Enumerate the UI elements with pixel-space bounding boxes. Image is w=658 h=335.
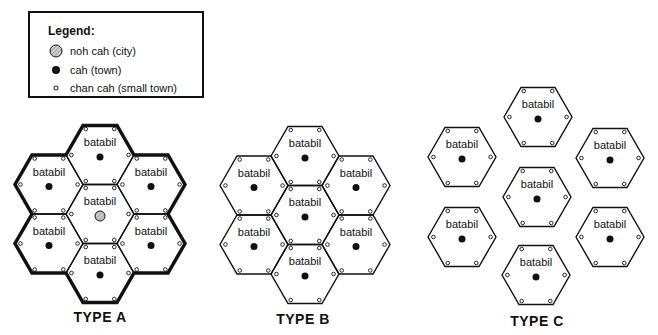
town-icon bbox=[251, 184, 258, 191]
small-town-icon bbox=[594, 209, 598, 213]
small-town-icon bbox=[474, 129, 478, 133]
hex-label: batabil bbox=[594, 218, 626, 230]
small-town-icon bbox=[127, 271, 131, 275]
small-town-icon bbox=[326, 243, 330, 247]
town-icon bbox=[353, 184, 360, 191]
small-town-icon bbox=[317, 128, 321, 132]
hex-label: batabil bbox=[33, 166, 65, 178]
small-town-icon bbox=[19, 242, 23, 246]
type-a-diagram: batabilbatabilbatabilbatabilbatabilbatab… bbox=[15, 126, 185, 303]
small-town-icon bbox=[550, 141, 554, 145]
small-town-icon bbox=[84, 297, 88, 301]
small-town-icon bbox=[317, 239, 321, 243]
small-town-icon bbox=[178, 183, 182, 187]
small-town-icon bbox=[521, 169, 525, 173]
hex-label: batabil bbox=[289, 196, 321, 208]
small-town-icon bbox=[563, 273, 567, 277]
small-town-icon bbox=[289, 187, 293, 191]
town-icon bbox=[302, 155, 309, 162]
small-town-icon bbox=[163, 268, 167, 272]
small-town-icon bbox=[340, 217, 344, 221]
town-icon bbox=[535, 116, 542, 123]
small-town-icon bbox=[76, 183, 80, 187]
town-icon bbox=[97, 154, 104, 161]
small-town-icon bbox=[84, 127, 88, 131]
hex-label: batabil bbox=[340, 167, 372, 179]
small-town-icon bbox=[289, 180, 293, 184]
small-town-icon bbox=[520, 299, 524, 303]
hex-label: batabil bbox=[33, 225, 65, 237]
small-town-icon bbox=[332, 272, 336, 276]
small-town-icon bbox=[520, 247, 524, 251]
small-town-icon bbox=[489, 155, 493, 159]
small-town-icon bbox=[317, 187, 321, 191]
town-icon bbox=[251, 243, 258, 250]
small-town-icon bbox=[594, 182, 598, 186]
small-town-icon bbox=[340, 158, 344, 162]
small-town-icon bbox=[112, 127, 116, 131]
small-town-icon bbox=[446, 181, 450, 185]
small-town-icon bbox=[368, 269, 372, 273]
small-town-icon bbox=[368, 158, 372, 162]
small-town-icon bbox=[238, 210, 242, 214]
small-town-icon bbox=[332, 154, 336, 158]
hex-label: batabil bbox=[522, 98, 554, 110]
hex-label: batabil bbox=[521, 178, 553, 190]
town-icon bbox=[459, 156, 466, 163]
small-town-icon bbox=[289, 239, 293, 243]
small-town-icon bbox=[163, 209, 167, 213]
type-c-diagram: batabilbatabilbatabilbatabilbatabilbatab… bbox=[428, 88, 644, 305]
small-town-icon bbox=[121, 242, 125, 246]
hex-label: batabil bbox=[594, 139, 626, 151]
small-town-icon bbox=[224, 184, 228, 188]
small-town-icon bbox=[594, 261, 598, 265]
small-town-icon bbox=[127, 153, 131, 157]
small-town-icon bbox=[135, 157, 139, 161]
small-town-icon bbox=[61, 216, 65, 220]
small-town-icon bbox=[266, 217, 270, 221]
small-town-icon bbox=[238, 217, 242, 221]
small-town-icon bbox=[112, 297, 116, 301]
small-town-icon bbox=[474, 261, 478, 265]
small-town-icon bbox=[548, 247, 552, 251]
small-town-icon bbox=[70, 271, 74, 275]
small-town-icon bbox=[432, 155, 436, 159]
small-town-icon bbox=[135, 216, 139, 220]
hex-label: batabil bbox=[135, 225, 167, 237]
small-town-icon bbox=[275, 154, 279, 158]
town-icon bbox=[459, 236, 466, 243]
small-town-icon bbox=[84, 238, 88, 242]
small-town-icon bbox=[289, 298, 293, 302]
town-icon bbox=[353, 243, 360, 250]
small-town-icon bbox=[549, 169, 553, 173]
small-town-icon bbox=[266, 158, 270, 162]
small-town-icon bbox=[61, 268, 65, 272]
small-town-icon bbox=[121, 183, 125, 187]
type-a-label: TYPE A bbox=[73, 309, 126, 325]
small-town-icon bbox=[275, 272, 279, 276]
small-town-icon bbox=[565, 115, 569, 119]
small-town-icon bbox=[70, 212, 74, 216]
town-icon bbox=[607, 157, 614, 164]
small-town-icon bbox=[84, 186, 88, 190]
small-town-icon bbox=[522, 89, 526, 93]
city-icon bbox=[95, 211, 105, 221]
small-town-icon bbox=[622, 261, 626, 265]
small-town-icon bbox=[332, 213, 336, 217]
small-town-icon bbox=[275, 213, 279, 217]
small-town-icon bbox=[224, 243, 228, 247]
small-town-icon bbox=[580, 235, 584, 239]
small-town-icon bbox=[112, 245, 116, 249]
small-town-icon bbox=[507, 195, 511, 199]
small-town-icon bbox=[289, 246, 293, 250]
town-icon bbox=[148, 183, 155, 190]
small-town-icon bbox=[521, 221, 525, 225]
small-town-icon bbox=[135, 268, 139, 272]
small-town-icon bbox=[317, 298, 321, 302]
small-town-icon bbox=[368, 217, 372, 221]
small-town-icon bbox=[266, 269, 270, 273]
small-town-icon bbox=[163, 157, 167, 161]
small-town-icon bbox=[33, 209, 37, 213]
small-town-icon bbox=[340, 269, 344, 273]
hex-label: batabil bbox=[238, 167, 270, 179]
